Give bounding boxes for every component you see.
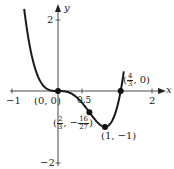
point-label-origin: (0, 0) — [34, 96, 61, 106]
tick-label-y-2: 2 — [47, 15, 53, 25]
tick-label-x-half: 0.5 — [77, 96, 91, 105]
point-origin — [55, 88, 61, 94]
denominator: 3 — [58, 124, 62, 131]
paren: ) — [89, 117, 93, 128]
denominator: 27 — [79, 124, 88, 131]
point-label-inflection: (23, −1627) — [53, 116, 93, 131]
chart: y x −1 0.5 2 2 −2 (0, 0) (1, −1) (43, 0)… — [0, 0, 174, 169]
point-label-root: (43, 0) — [123, 73, 150, 88]
y-axis-label: y — [64, 3, 70, 13]
x-axis-arrow-icon — [158, 88, 166, 94]
paren: , 0) — [133, 74, 150, 85]
curve-line — [24, 9, 124, 127]
tick-label-y-neg2: −2 — [40, 158, 55, 168]
fraction-16-27: 1627 — [78, 116, 89, 131]
point-label-minimum: (1, −1) — [101, 131, 136, 141]
separator: , − — [63, 117, 78, 128]
tick-label-x-neg1: −1 — [6, 96, 21, 106]
x-axis-label: x — [166, 85, 172, 95]
y-axis-arrow-icon — [55, 4, 61, 12]
point-root — [118, 88, 124, 94]
tick-label-x-2: 2 — [149, 96, 155, 106]
denominator: 3 — [128, 81, 132, 88]
